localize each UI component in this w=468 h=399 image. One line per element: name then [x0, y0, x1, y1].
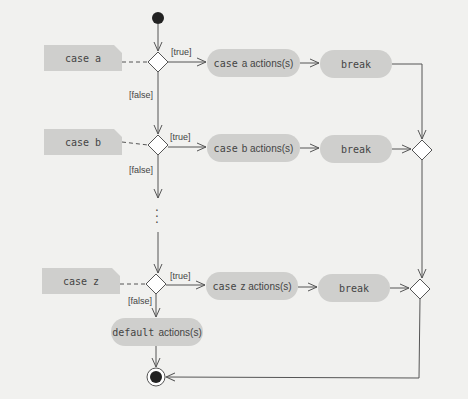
ellipsis: ···	[155, 208, 159, 226]
guard-false-a: [false]	[129, 90, 153, 100]
initial-node	[152, 12, 164, 24]
case-a-note: case a	[44, 45, 122, 71]
case-b-action: caseb actions(s)	[207, 134, 300, 162]
guard-true-a: [true]	[171, 47, 192, 57]
break-a: break	[320, 50, 392, 78]
guard-true-b: [true]	[170, 132, 191, 142]
guard-false-b: [false]	[129, 165, 153, 175]
break-b: break	[320, 135, 392, 163]
case-a-action: casea actions(s)	[207, 49, 300, 77]
case-z-action: casez actions(s)	[206, 272, 298, 300]
guard-false-z: [false]	[128, 296, 152, 306]
guard-true-z: [true]	[170, 271, 191, 281]
break-z: break	[318, 274, 390, 302]
case-z-note: case z	[42, 268, 120, 294]
case-b-note: case b	[44, 129, 122, 155]
default-action: defaultactions(s)	[111, 318, 203, 346]
